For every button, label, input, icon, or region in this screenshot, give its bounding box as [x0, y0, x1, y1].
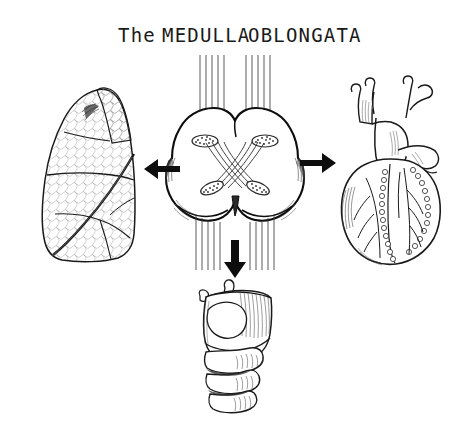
figure-title-word-medulla: MEDULLA — [162, 24, 250, 46]
medulla-oblongata-figure: The MEDULLA OBLONGATA — [0, 0, 470, 425]
figure-title-word-oblongata: OBLONGATA — [248, 24, 362, 46]
laryngeal-prominence — [207, 302, 247, 338]
cricoid-cartilage — [205, 348, 264, 373]
figure-title-article: The — [118, 24, 156, 46]
